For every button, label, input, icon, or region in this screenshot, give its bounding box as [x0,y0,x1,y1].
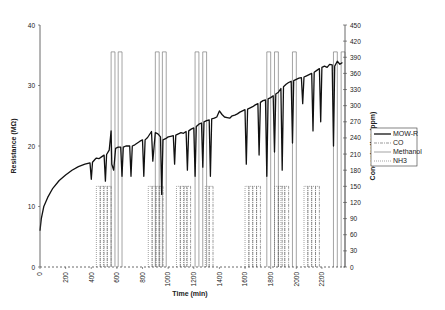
y-right-tick-label: 300 [350,102,361,109]
x-tick-label: 1400 [216,272,223,287]
legend-label: CO [393,139,404,146]
co-pulse [209,186,213,267]
x-tick-label: 200 [62,272,69,283]
x-tick-label: 1800 [267,272,274,287]
y-left-axis-title: Resistance (MΩ) [10,118,18,173]
y-right-tick-label: 180 [350,167,361,174]
y-right-tick-label: 450 [350,22,361,29]
y-right-tick-label: 240 [350,134,361,141]
nh3-pulse [253,186,257,267]
nh3-pulse [275,186,279,267]
x-tick-label: 1000 [164,272,171,287]
co-pulse [316,186,320,267]
co-pulse [249,186,253,267]
y-right-tick-label: 120 [350,199,361,206]
x-tick-label: 2000 [293,272,300,287]
y-left-tick-label: 10 [28,203,36,210]
x-tick-label: 1200 [190,272,197,287]
y-right-tick-label: 150 [350,183,361,190]
co-pulse [278,186,282,267]
x-tick-label: 2200 [318,272,325,287]
y-right-tick-label: 210 [350,151,361,158]
y-right-tick-label: 420 [350,38,361,45]
co-pulse [107,186,111,267]
x-tick-label: 600 [113,272,120,283]
concentration-pulses [96,52,345,267]
y-right-tick-label: 60 [350,231,358,238]
legend-label: MOW-R [393,130,418,137]
y-right-tick-label: 390 [350,54,361,61]
y-left-tick-label: 0 [31,264,35,271]
y-right-ticks: 0306090120150180210240270300330360390420… [343,22,361,271]
y-right-tick-label: 270 [350,118,361,125]
nh3-pulse [304,186,308,267]
nh3-pulse [176,186,180,267]
co-pulse [308,186,312,267]
legend-label: Methanol [393,148,422,155]
y-left-tick-label: 20 [28,143,36,150]
co-pulse [285,186,289,267]
legend: MOW-RCOMethanolNH3 [371,128,422,166]
x-ticks: 0200400600800100012001400160018002000220… [36,267,325,286]
chart-canvas: 010203040 030609012015018021024027030033… [0,0,445,310]
nh3-pulse [281,186,285,267]
x-axis-title: Time (min) [172,290,207,298]
x-tick-label: 1600 [241,272,248,287]
nh3-pulse [96,186,100,267]
y-right-tick-label: 30 [350,247,358,254]
y-right-tick-label: 90 [350,215,358,222]
resistance-line [40,61,342,230]
x-tick-label: 0 [36,272,43,276]
chart: 010203040 030609012015018021024027030033… [0,0,445,310]
y-right-tick-label: 0 [350,264,354,271]
y-left-tick-label: 30 [28,82,36,89]
legend-label: NH3 [393,157,407,164]
y-left-tick-label: 40 [28,22,36,29]
x-tick-label: 400 [88,272,95,283]
y-right-tick-label: 360 [350,70,361,77]
nh3-pulse [245,186,249,267]
x-tick-label: 800 [139,272,146,283]
nh3-pulse [312,186,316,267]
co-pulse [257,186,261,267]
y-left-ticks: 010203040 [28,22,40,271]
mow-r-line [40,61,342,230]
methanol-pulse [275,52,279,267]
y-right-tick-label: 330 [350,86,361,93]
nh3-pulse [148,186,152,267]
nh3-pulse [205,186,209,267]
